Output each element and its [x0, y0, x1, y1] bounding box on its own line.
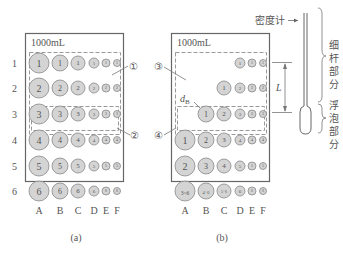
- particle-label: 6: [76, 187, 80, 195]
- callout-2: ②: [130, 130, 139, 141]
- svg-text:2: 2: [12, 83, 17, 94]
- particle-grid-b: 1111222123331234442345553~64~65~6666: [175, 58, 267, 201]
- length-dimension: [272, 63, 292, 113]
- particle-label: 5: [262, 163, 264, 168]
- particle-label: 6: [116, 188, 118, 193]
- particle-label: 1: [222, 84, 226, 92]
- particle-label: 4: [76, 136, 80, 144]
- particle-label: 5~6: [221, 189, 227, 194]
- svg-text:6: 6: [12, 186, 17, 197]
- particle-label: 5: [76, 162, 80, 170]
- svg-text:杆: 杆: [329, 53, 339, 64]
- svg-text:4: 4: [12, 135, 17, 146]
- svg-text:浮: 浮: [329, 100, 339, 111]
- svg-text:F: F: [260, 205, 266, 216]
- length-label: L: [275, 82, 282, 93]
- row-labels-a: 1 2 3 4 5 6: [12, 58, 17, 197]
- svg-text:D: D: [236, 205, 243, 216]
- particle-label: 4: [58, 136, 62, 145]
- particle-label: 3: [222, 136, 226, 144]
- particle-label: 2: [76, 84, 80, 92]
- particle-label: 3: [105, 111, 107, 116]
- particle-label: 1: [76, 59, 80, 67]
- particle-label: 4~6: [203, 190, 211, 195]
- callout-3: ③: [154, 61, 163, 72]
- particle-label: 4: [251, 137, 253, 142]
- bulb-label: 浮 泡 部 分: [329, 100, 339, 150]
- particle-label: 3: [262, 111, 264, 116]
- svg-text:B: B: [57, 205, 64, 216]
- stem-label: 细 杆 部 分: [329, 39, 339, 90]
- particle-label: 6: [58, 187, 62, 196]
- svg-text:A: A: [181, 205, 189, 216]
- svg-text:5: 5: [12, 161, 17, 172]
- particle-label: 5: [58, 162, 62, 171]
- caption-b: (b): [216, 232, 228, 244]
- volume-label-b: 1000mL: [177, 37, 211, 48]
- particle-label: 2: [105, 85, 107, 90]
- callout-1: ①: [129, 61, 138, 72]
- particle-label: 4: [105, 137, 107, 142]
- particle-label: 1: [37, 58, 42, 69]
- particle-label: 6: [262, 188, 264, 193]
- particle-label: 4: [262, 137, 264, 142]
- particle-label: 6: [105, 188, 107, 193]
- particle-label: 6: [251, 188, 253, 193]
- svg-text:细: 细: [329, 39, 339, 51]
- particle-label: 6: [37, 186, 42, 197]
- d-b-label: dB: [180, 93, 190, 106]
- particle-label: 2: [222, 110, 226, 118]
- svg-text:C: C: [221, 205, 228, 216]
- svg-text:部: 部: [329, 125, 339, 137]
- svg-text:3: 3: [12, 109, 17, 120]
- particle-label: 5: [105, 163, 107, 168]
- svg-text:1: 1: [12, 58, 17, 69]
- svg-text:部: 部: [329, 65, 339, 77]
- particle-grid-a: 111111222222333333444444555555666666: [29, 53, 121, 201]
- callout-4: ④: [154, 130, 163, 141]
- particle-label: 1: [116, 60, 118, 65]
- svg-text:C: C: [75, 205, 82, 216]
- particle-label: 4: [37, 135, 42, 146]
- particle-label: 5: [116, 163, 118, 168]
- particle-label: 3: [204, 162, 208, 171]
- col-labels-a: A B C D E F: [35, 205, 120, 216]
- svg-text:D: D: [90, 205, 97, 216]
- stem-brace: [318, 8, 326, 102]
- particle-label: 5: [251, 163, 253, 168]
- particle-label: 3~6: [181, 190, 190, 196]
- bulb-brace: [318, 104, 326, 133]
- particle-label: 2: [37, 83, 42, 94]
- figure-a: 1000mL 1 2 3 4 5 6 111111222222333333444…: [12, 34, 139, 245]
- particle-label: 1: [58, 59, 62, 68]
- particle-label: 3: [76, 110, 80, 118]
- particle-label: 2: [251, 85, 253, 90]
- particle-label: 2: [262, 85, 264, 90]
- svg-text:F: F: [114, 205, 120, 216]
- particle-label: 3: [116, 111, 118, 116]
- particle-label: 3: [37, 109, 42, 120]
- figure-b: 1000mL 1111222123331234442345553~64~65~6…: [154, 34, 292, 245]
- particle-label: 2: [58, 84, 62, 93]
- svg-text:分: 分: [329, 139, 339, 150]
- hydrometer: 密度计 细 杆 部 分 浮 泡 部 分: [255, 8, 339, 150]
- svg-text:E: E: [249, 205, 255, 216]
- svg-text:A: A: [35, 205, 43, 216]
- particle-label: 1: [204, 110, 208, 119]
- svg-text:B: B: [203, 205, 210, 216]
- particle-label: 4: [222, 162, 226, 170]
- particle-label: 1: [105, 60, 107, 65]
- particle-label: 2: [116, 85, 118, 90]
- volume-label-a: 1000mL: [31, 37, 65, 48]
- caption-a: (a): [70, 232, 81, 244]
- particle-label: 4: [116, 137, 118, 142]
- hydrometer-label: 密度计: [255, 14, 285, 26]
- particle-label: 3: [251, 111, 253, 116]
- particle-label: 1: [251, 60, 253, 65]
- particle-label: 3: [58, 110, 62, 119]
- particle-label: 2: [204, 136, 208, 145]
- svg-text:泡: 泡: [329, 112, 339, 124]
- svg-text:分: 分: [329, 79, 339, 90]
- col-labels-b: A B C D E F: [181, 205, 266, 216]
- particle-label: 1: [262, 60, 264, 65]
